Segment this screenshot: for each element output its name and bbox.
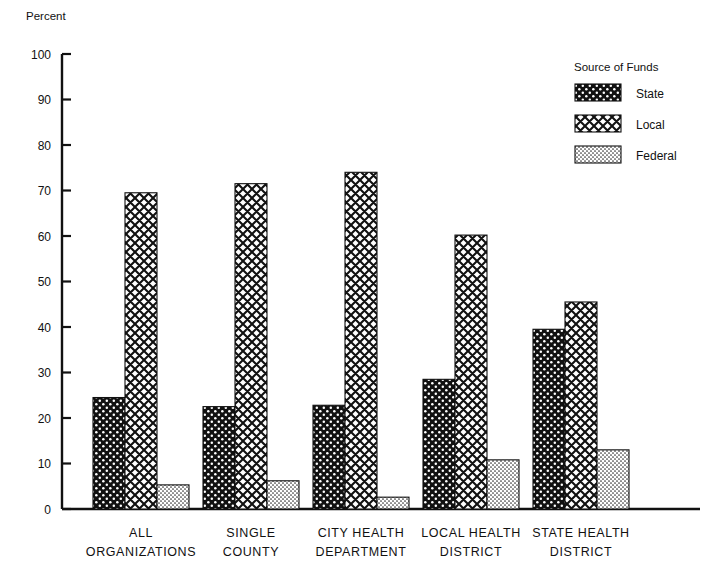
category-label: DEPARTMENT	[316, 545, 407, 559]
x-axis-labels: ALLORGANIZATIONSSINGLECOUNTYCITY HEALTHD…	[86, 526, 630, 559]
bar-state-1	[93, 398, 125, 509]
category-label: SINGLE	[226, 526, 275, 540]
bar-group	[313, 172, 409, 509]
bar-group	[533, 302, 629, 509]
chart-canvas: Percent0102030405060708090100ALLORGANIZA…	[0, 0, 707, 578]
y-tick-label: 90	[38, 93, 52, 107]
bar-state-3	[313, 405, 345, 509]
y-tick-label: 50	[38, 275, 52, 289]
bar-group	[423, 235, 519, 509]
y-tick-label: 80	[38, 139, 52, 153]
bar-state-2	[203, 407, 235, 509]
legend-label-state: State	[636, 87, 664, 101]
legend-label-local: Local	[636, 118, 665, 132]
bar-chart: Percent0102030405060708090100ALLORGANIZA…	[0, 0, 707, 578]
category-label: CITY HEALTH	[318, 526, 405, 540]
legend-swatch-state	[575, 84, 621, 101]
bar-state-4	[423, 379, 455, 509]
y-tick-label: 0	[44, 503, 51, 517]
bar-federal-2	[267, 481, 299, 509]
bar-federal-4	[487, 460, 519, 509]
y-tick-label: 30	[38, 366, 52, 380]
bar-local-2	[235, 184, 267, 509]
bar-federal-1	[157, 485, 189, 509]
bar-local-5	[565, 302, 597, 509]
y-tick-label: 20	[38, 412, 52, 426]
y-tick-label: 100	[31, 48, 51, 62]
legend: Source of FundsStateLocalFederal	[574, 61, 677, 163]
category-label: DISTRICT	[550, 545, 612, 559]
bar-state-5	[533, 329, 565, 509]
bars-group	[93, 172, 629, 509]
y-tick-label: 60	[38, 230, 52, 244]
legend-swatch-federal	[575, 146, 621, 163]
legend-title: Source of Funds	[574, 61, 659, 73]
bar-federal-5	[597, 450, 629, 509]
bar-group	[203, 184, 299, 509]
legend-swatch-local	[575, 115, 621, 132]
y-tick-label: 10	[38, 457, 52, 471]
category-label: COUNTY	[223, 545, 279, 559]
bar-local-4	[455, 235, 487, 509]
bar-local-3	[345, 172, 377, 509]
bar-federal-3	[377, 497, 409, 509]
category-label: STATE HEALTH	[532, 526, 630, 540]
category-label: ORGANIZATIONS	[86, 545, 196, 559]
legend-label-federal: Federal	[636, 149, 677, 163]
bar-local-1	[125, 193, 157, 509]
y-tick-label: 70	[38, 184, 52, 198]
category-label: LOCAL HEALTH	[421, 526, 521, 540]
y-axis-title: Percent	[26, 10, 66, 22]
category-label: DISTRICT	[440, 545, 502, 559]
bar-group	[93, 193, 189, 509]
y-axis-ticks: 0102030405060708090100	[31, 48, 71, 517]
y-tick-label: 40	[38, 321, 52, 335]
category-label: ALL	[129, 526, 153, 540]
